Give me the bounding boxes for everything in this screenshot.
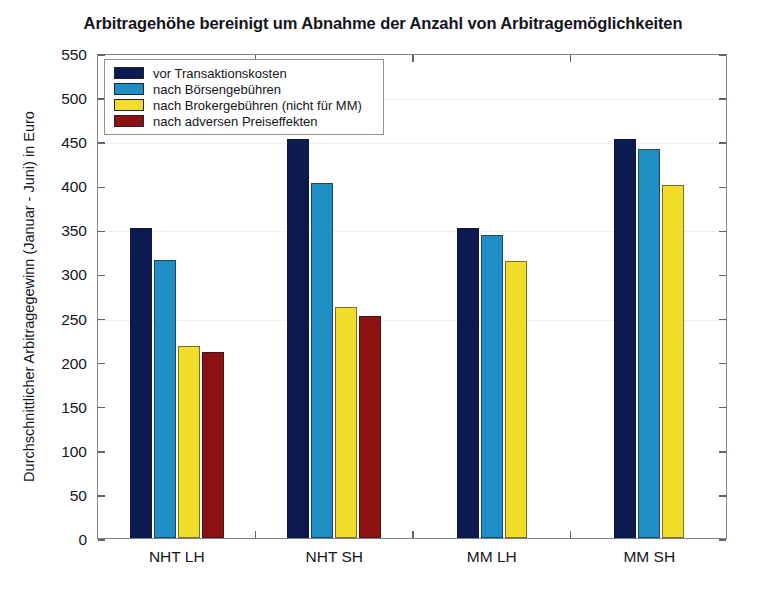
y-axis-tick-label: 150 bbox=[61, 399, 87, 417]
y-axis-tick-label: 200 bbox=[61, 355, 87, 373]
y-axis-tick bbox=[719, 187, 726, 188]
y-axis-tick-label: 300 bbox=[61, 266, 87, 284]
y-axis-tick bbox=[719, 319, 726, 320]
y-axis-tick bbox=[98, 231, 105, 232]
y-axis-tick-label: 450 bbox=[61, 134, 87, 152]
y-axis-tick-label: 100 bbox=[61, 443, 87, 461]
bar bbox=[178, 346, 200, 538]
bar bbox=[638, 149, 660, 538]
y-axis-tick-label: 350 bbox=[61, 222, 87, 240]
y-axis-tick bbox=[98, 363, 105, 364]
x-axis-tick-label: MM SH bbox=[623, 548, 675, 566]
x-axis-tick bbox=[412, 55, 413, 62]
legend-item: vor Transaktionskosten bbox=[114, 66, 375, 80]
y-axis-tick bbox=[98, 275, 105, 276]
y-axis-tick bbox=[719, 407, 726, 408]
chart-title: Arbitragehöhe bereinigt um Abnahme der A… bbox=[0, 14, 766, 33]
bar bbox=[359, 316, 381, 538]
plot-area: 050100150200250300350400450500550 NHT LH… bbox=[97, 54, 727, 539]
x-axis-tick-label: NHT SH bbox=[306, 548, 363, 566]
y-axis-tick bbox=[719, 495, 726, 496]
chart-figure: Arbitragehöhe bereinigt um Abnahme der A… bbox=[0, 0, 766, 593]
legend-label: nach adversen Preiseffekten bbox=[153, 114, 318, 129]
legend-item: nach adversen Preiseffekten bbox=[114, 114, 375, 128]
bar bbox=[154, 260, 176, 538]
legend-label: nach Brokergebühren (nicht für MM) bbox=[153, 98, 362, 113]
y-axis-tick bbox=[98, 495, 105, 496]
legend-swatch bbox=[114, 99, 144, 111]
y-axis-tick bbox=[98, 539, 105, 540]
y-axis-tick-label: 500 bbox=[61, 90, 87, 108]
y-axis-tick bbox=[98, 54, 105, 55]
y-axis-tick bbox=[98, 407, 105, 408]
legend-swatch bbox=[114, 115, 144, 127]
x-axis-tick-label: NHT LH bbox=[149, 548, 205, 566]
bar bbox=[130, 228, 152, 538]
chart-legend: vor Transaktionskostennach Börsengebühre… bbox=[104, 59, 384, 135]
legend-label: vor Transaktionskosten bbox=[153, 66, 287, 81]
y-axis-tick-label: 400 bbox=[61, 178, 87, 196]
y-axis-tick bbox=[719, 231, 726, 232]
y-axis-tick-label: 250 bbox=[61, 311, 87, 329]
x-axis-tick-label: MM LH bbox=[467, 548, 517, 566]
bar bbox=[614, 139, 636, 538]
y-axis-tick bbox=[719, 275, 726, 276]
y-axis-title: Durchschnittlicher Arbitragegewinn (Janu… bbox=[16, 54, 42, 539]
y-axis-tick bbox=[98, 142, 105, 143]
y-axis-tick bbox=[719, 363, 726, 364]
legend-label: nach Börsengebühren bbox=[153, 82, 281, 97]
y-axis-tick bbox=[98, 451, 105, 452]
legend-swatch bbox=[114, 67, 144, 79]
x-axis-tick bbox=[412, 531, 413, 538]
y-axis-tick bbox=[98, 187, 105, 188]
legend-swatch bbox=[114, 83, 144, 95]
y-axis-tick-label: 550 bbox=[61, 46, 87, 64]
y-axis-tick-label: 50 bbox=[70, 487, 87, 505]
bar bbox=[335, 307, 357, 538]
bar bbox=[311, 183, 333, 538]
legend-item: nach Brokergebühren (nicht für MM) bbox=[114, 98, 375, 112]
x-axis-tick bbox=[255, 531, 256, 538]
y-axis-tick-label: 0 bbox=[78, 531, 87, 549]
bar bbox=[481, 235, 503, 538]
x-axis-tick bbox=[570, 531, 571, 538]
y-axis-tick bbox=[98, 319, 105, 320]
bar bbox=[457, 228, 479, 538]
bar bbox=[662, 185, 684, 538]
bar bbox=[202, 352, 224, 538]
y-axis-tick bbox=[719, 451, 726, 452]
legend-item: nach Börsengebühren bbox=[114, 82, 375, 96]
y-axis-tick bbox=[719, 539, 726, 540]
x-axis-tick bbox=[570, 55, 571, 62]
y-axis-tick bbox=[719, 142, 726, 143]
bar bbox=[505, 261, 527, 538]
y-axis-tick bbox=[719, 98, 726, 99]
bar bbox=[287, 139, 309, 538]
y-axis-tick bbox=[719, 54, 726, 55]
